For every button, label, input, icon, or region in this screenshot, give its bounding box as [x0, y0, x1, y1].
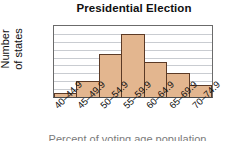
y-axis-title-line-1: Number: [0, 13, 12, 85]
y-axis-title: Number of states: [0, 13, 25, 85]
y-axis-title-line-2: of states: [12, 13, 25, 85]
histogram-chart: Presidential Election Number of states 0…: [0, 0, 235, 141]
chart-title: Presidential Election: [35, 2, 233, 14]
x-axis-title: Percent of voting age population: [20, 133, 235, 141]
